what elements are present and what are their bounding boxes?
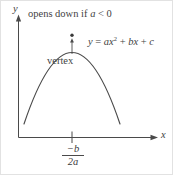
equation-coef-c: c (149, 36, 154, 47)
x-axis-label: x (161, 130, 166, 141)
caption-prefix: opens down if (28, 8, 90, 19)
fraction-numerator: −b (60, 143, 86, 155)
equation-plus-one: + (117, 36, 128, 47)
equation-plus-two: + (138, 36, 149, 47)
equation-label: y = ax2 + bx + c (88, 37, 154, 48)
caption-text: opens down if a < 0 (28, 9, 112, 20)
equation-equals: = (93, 36, 104, 47)
y-axis-label: y (13, 4, 18, 15)
caption-suffix: < 0 (95, 8, 111, 19)
y-axis-arrowhead (16, 15, 21, 22)
axis-of-symmetry-value: −b 2a (60, 143, 86, 167)
fraction-denominator: 2a (60, 156, 86, 168)
vertex-point (70, 34, 73, 37)
x-axis-arrowhead (151, 135, 159, 141)
vertex-pointer-arrowhead (70, 38, 74, 42)
vertex-label: vertex (47, 56, 73, 67)
parabola-plot (0, 0, 174, 176)
parabola-figure: y x opens down if a < 0 y = ax2 + bx + c… (0, 0, 174, 176)
